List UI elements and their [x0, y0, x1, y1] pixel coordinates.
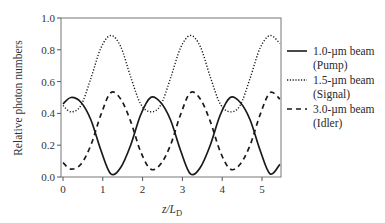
x-tick-label: 5 [259, 183, 265, 195]
dotted-line-icon [287, 78, 307, 82]
legend-item-idler: 3.0-µm beam (Idler) [283, 102, 385, 130]
x-tick-label: 4 [219, 183, 225, 195]
legend-item-pump: 1.0-µm beam (Pump) [283, 44, 385, 72]
legend-label: 1.5-µm beam [313, 73, 385, 87]
plot-border [61, 18, 281, 177]
legend: 1.0-µm beam (Pump) 1.5-µm beam (Signal) … [283, 44, 385, 131]
x-tick-label: 1 [100, 183, 106, 195]
plot-area [61, 18, 281, 177]
series-line-dashed [63, 92, 280, 170]
y-tick-label: 0.8 [41, 44, 55, 56]
x-tick-label: 3 [180, 183, 186, 195]
y-axis-title: Relative photon numbers [12, 40, 25, 156]
x-axis-title: z/LD [161, 203, 182, 218]
legend-item-signal: 1.5-µm beam (Signal) [283, 73, 385, 101]
legend-label: 3.0-µm beam [313, 102, 385, 116]
x-axis: 012345 [60, 177, 265, 195]
legend-sublabel: (Signal) [313, 87, 385, 101]
y-tick-label: 0.0 [41, 171, 55, 183]
legend-sublabel: (Idler) [313, 116, 385, 130]
dashed-line-icon [287, 107, 307, 111]
legend-label: 1.0-µm beam [313, 44, 385, 58]
y-tick-label: 0.4 [41, 107, 55, 119]
x-tick-label: 2 [140, 183, 146, 195]
series-lines [63, 35, 280, 174]
series-line-solid [63, 97, 280, 175]
x-tick-label: 0 [60, 183, 66, 195]
y-axis: 0.00.20.40.60.81.0 [41, 12, 61, 183]
legend-sublabel: (Pump) [313, 58, 385, 72]
series-line-dotted [63, 35, 280, 111]
y-tick-label: 0.6 [41, 76, 55, 88]
y-tick-label: 0.2 [41, 139, 55, 151]
y-tick-label: 1.0 [41, 12, 55, 24]
solid-line-icon [287, 49, 307, 53]
